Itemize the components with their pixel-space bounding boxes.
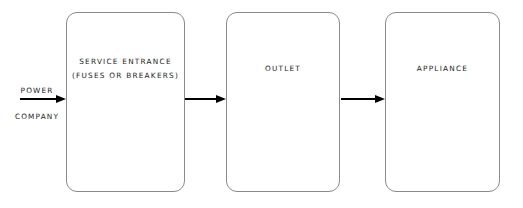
power-flow-diagram: POWER COMPANY SERVICE ENTRANCE (FUSES OR… (0, 0, 523, 208)
arrow-source-to-service-entrance (20, 93, 66, 105)
node-outlet: OUTLET (226, 12, 340, 192)
node-appliance-label-line1: APPLIANCE (386, 62, 499, 76)
node-service-entrance-label-line1: SERVICE ENTRANCE (67, 55, 184, 69)
node-service-entrance: SERVICE ENTRANCE (FUSES OR BREAKERS) (66, 12, 185, 192)
arrow-outlet-to-appliance (341, 93, 385, 105)
power-company-label-line2: COMPANY (2, 112, 72, 122)
node-appliance: APPLIANCE (385, 12, 500, 192)
node-service-entrance-label-line2: (FUSES OR BREAKERS) (67, 69, 184, 83)
arrow-service-entrance-to-outlet (185, 93, 226, 105)
node-outlet-label-line1: OUTLET (227, 62, 339, 76)
